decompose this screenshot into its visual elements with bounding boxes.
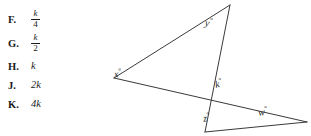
answer-choice-value: k 4 (31, 9, 40, 29)
fraction-denominator: 2 (31, 44, 40, 53)
answer-choice-letter: J. (8, 80, 25, 91)
answer-choice-h[interactable]: H. k (8, 56, 36, 76)
answer-choice-letter: F. (8, 14, 25, 25)
answer-choice-f[interactable]: F. k 4 (8, 9, 40, 29)
fraction-k-over-2: k 2 (31, 33, 40, 53)
answer-choice-k[interactable]: K. 4k (8, 94, 41, 114)
answer-choice-letter: H. (8, 61, 25, 72)
fraction-k-over-4: k 4 (31, 9, 40, 29)
answer-choice-value: 2k (31, 80, 41, 91)
answer-choice-letter: K. (8, 99, 25, 110)
fraction-denominator: 4 (31, 20, 40, 29)
answer-choice-letter: G. (8, 38, 25, 49)
geometry-diagram: x° y° k° z° w° (90, 0, 311, 136)
diagram-svg (90, 0, 311, 136)
answer-choice-g[interactable]: G. k 2 (8, 33, 40, 53)
fraction-numerator: k (32, 33, 40, 42)
angle-label-x: x° (114, 68, 122, 80)
question-figure-panel: F. k 4 G. k 2 H. k (0, 0, 311, 136)
answer-choices-list: F. k 4 G. k 2 H. k (0, 0, 90, 136)
angle-label-z: z° (202, 112, 210, 124)
segment-left-vertex-to-right-tip (114, 78, 307, 122)
angle-label-w: w° (257, 106, 268, 118)
fraction-numerator: k (32, 9, 40, 18)
answer-choice-value: k 2 (31, 33, 40, 53)
answer-choice-value: k (31, 61, 36, 72)
segment-bottom-vertex-to-right-tip (205, 122, 307, 132)
answer-choice-value: 4k (31, 99, 41, 110)
answer-choice-j[interactable]: J. 2k (8, 75, 41, 95)
